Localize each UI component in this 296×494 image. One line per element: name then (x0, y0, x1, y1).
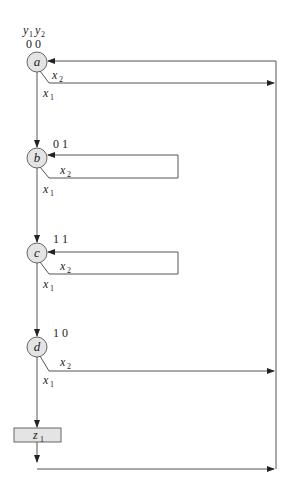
svg-text:1: 1 (50, 284, 54, 293)
svg-text:a: a (34, 54, 41, 69)
svg-text:2: 2 (41, 30, 45, 39)
state-c-code: 1 1 (53, 232, 68, 246)
svg-text:x: x (42, 277, 49, 291)
svg-text:1: 1 (50, 380, 54, 389)
svg-text:x: x (42, 182, 49, 196)
y2-label: y (34, 23, 41, 37)
state-b-code: 0 1 (53, 137, 68, 151)
svg-text:b: b (34, 150, 41, 165)
svg-text:1: 1 (40, 435, 44, 444)
asm-chart: y 1 y 2 0 0 a x 2 x 1 0 1 b x 2 x 1 1 1 … (0, 0, 296, 494)
svg-text:2: 2 (67, 362, 71, 371)
svg-text:x: x (59, 259, 66, 273)
svg-text:x: x (42, 373, 49, 387)
state-a-code: 0 0 (26, 37, 41, 51)
return-to-a-line (48, 61, 276, 469)
svg-text:x: x (59, 355, 66, 369)
state-d-code: 1 0 (53, 326, 68, 340)
state-a-x2-branch (40, 71, 274, 83)
svg-text:x: x (42, 86, 49, 100)
svg-text:2: 2 (67, 170, 71, 179)
y1-label: y (22, 23, 29, 37)
state-d-x2-branch (40, 356, 274, 371)
svg-text:2: 2 (67, 266, 71, 275)
svg-text:x: x (59, 163, 66, 177)
svg-text:d: d (34, 339, 41, 354)
svg-text:1: 1 (50, 93, 54, 102)
svg-text:x: x (51, 68, 58, 82)
svg-text:1: 1 (50, 189, 54, 198)
svg-text:c: c (34, 245, 40, 260)
svg-text:2: 2 (59, 75, 63, 84)
svg-text:z: z (32, 428, 38, 442)
